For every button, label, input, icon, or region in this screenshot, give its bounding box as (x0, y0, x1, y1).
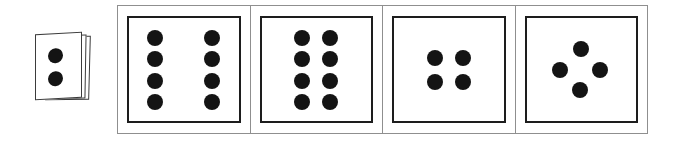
dot (147, 73, 163, 89)
dot (427, 50, 443, 66)
dot (204, 51, 220, 67)
dot (573, 41, 589, 57)
dot-group (129, 18, 239, 121)
dot (294, 94, 310, 110)
panel-four-dots-diamond[interactable] (516, 6, 648, 133)
dot-card (260, 16, 374, 123)
card-stack-dot (48, 71, 63, 87)
panel-frame (117, 5, 648, 134)
dot (322, 51, 338, 67)
panel-eight-dots-wide[interactable] (118, 6, 251, 133)
dot (322, 30, 338, 46)
dot (455, 50, 471, 66)
card-stack-sheet-front (35, 32, 82, 100)
dot (204, 73, 220, 89)
card-stack-dot (48, 48, 63, 64)
two-dot-card-stack[interactable] (34, 31, 96, 107)
dot (592, 62, 608, 78)
dot-card (127, 16, 241, 123)
dot (322, 73, 338, 89)
panel-four-dots-square[interactable] (383, 6, 516, 133)
dot (147, 94, 163, 110)
dot (294, 73, 310, 89)
dot-card (392, 16, 506, 123)
dot (322, 94, 338, 110)
panel-eight-dots-narrow[interactable] (251, 6, 384, 133)
dot (204, 94, 220, 110)
dot (552, 62, 568, 78)
dot (147, 51, 163, 67)
dot (147, 30, 163, 46)
dot (427, 74, 443, 90)
dot (572, 82, 588, 98)
dot-group (394, 18, 504, 121)
dot (294, 30, 310, 46)
dot-group (262, 18, 372, 121)
dot (204, 30, 220, 46)
dot-group (527, 18, 637, 121)
dot (294, 51, 310, 67)
dot-card (525, 16, 639, 123)
dot-pattern-scene (0, 0, 675, 154)
dot (455, 74, 471, 90)
